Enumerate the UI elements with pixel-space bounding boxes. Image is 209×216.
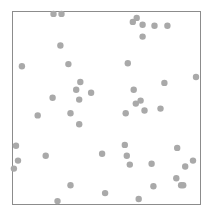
data-point	[35, 112, 41, 118]
data-point	[134, 15, 140, 21]
data-point	[193, 74, 199, 80]
data-point	[164, 23, 170, 29]
data-point	[15, 157, 21, 163]
data-point	[174, 145, 180, 151]
data-point	[150, 183, 156, 189]
data-point	[136, 196, 142, 202]
scatter-plot	[0, 0, 209, 216]
data-point	[19, 63, 25, 69]
data-point	[67, 182, 73, 188]
data-point	[88, 90, 94, 96]
data-point	[11, 165, 17, 171]
data-point	[123, 110, 129, 116]
data-point	[141, 107, 147, 113]
data-point	[148, 161, 154, 167]
data-point	[57, 42, 63, 48]
data-point	[13, 143, 19, 149]
data-point	[58, 11, 64, 17]
data-point	[99, 151, 105, 157]
data-point	[67, 110, 73, 116]
data-point	[122, 142, 128, 148]
data-point	[102, 190, 108, 196]
data-point	[151, 23, 157, 29]
data-point	[65, 61, 71, 67]
data-point	[76, 96, 82, 102]
scatter-points	[11, 11, 200, 205]
data-point	[50, 11, 56, 17]
data-point	[77, 79, 83, 85]
data-point	[76, 121, 82, 127]
data-point	[173, 175, 179, 181]
data-point	[43, 153, 49, 159]
data-point	[190, 157, 196, 163]
data-point	[137, 97, 143, 103]
data-point	[157, 105, 163, 111]
data-point	[127, 161, 133, 167]
data-point	[182, 163, 188, 169]
data-point	[139, 33, 145, 39]
data-point	[73, 87, 79, 93]
data-point	[49, 95, 55, 101]
data-point	[124, 153, 130, 159]
data-point	[161, 80, 167, 86]
data-point	[131, 87, 137, 93]
data-point	[139, 22, 145, 28]
plot-frame	[13, 12, 201, 205]
data-point	[125, 60, 131, 66]
data-point	[180, 182, 186, 188]
data-point	[54, 198, 60, 204]
